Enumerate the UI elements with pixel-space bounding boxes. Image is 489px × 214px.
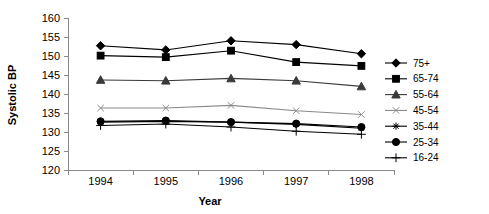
diamond-marker: [357, 50, 365, 58]
data-point-diamond: [392, 59, 400, 67]
y-tick-label: 150: [42, 50, 60, 62]
x-tick-label: 1995: [154, 175, 178, 187]
legend-label: 65-74: [413, 73, 439, 84]
series-65-74: [97, 47, 365, 69]
data-point-circle: [392, 138, 399, 145]
data-point-diamond: [162, 46, 170, 54]
y-tick-label: 145: [42, 69, 60, 81]
series-45-54: [97, 102, 364, 118]
data-point-square: [293, 59, 300, 66]
legend-label: 35-44: [413, 121, 439, 132]
x-tick-label: 1996: [219, 175, 243, 187]
circle-marker: [358, 123, 365, 130]
data-point-square: [228, 47, 235, 54]
y-tick-label: 130: [42, 126, 60, 138]
legend-item-65-74[interactable]: 65-74: [385, 73, 439, 84]
x-tick-label: 1998: [349, 175, 373, 187]
data-point-star: [392, 123, 399, 130]
diamond-marker: [292, 40, 300, 48]
square-marker: [393, 75, 400, 82]
x-tick-label: 1997: [284, 175, 308, 187]
y-tick-label: 155: [42, 31, 60, 43]
diamond-marker: [96, 42, 104, 50]
legend-item-75plus[interactable]: 75+: [385, 58, 430, 69]
data-point-square: [162, 54, 169, 61]
square-marker: [358, 62, 365, 69]
legend-label: 25-34: [413, 137, 439, 148]
legend-label: 75+: [413, 58, 430, 69]
y-tick-label: 135: [42, 107, 60, 119]
chart-canvas: 120125130135140145150155160 199419951996…: [0, 0, 489, 214]
square-marker: [228, 47, 235, 54]
legend-label: 45-54: [413, 105, 439, 116]
circle-marker: [392, 138, 399, 145]
series-layer: [96, 37, 366, 139]
y-tick-label: 160: [42, 12, 60, 24]
y-tick-label: 140: [42, 88, 60, 100]
data-point-plus: [392, 153, 401, 162]
legend-item-25-34[interactable]: 25-34: [385, 137, 439, 148]
systolic-bp-line-chart: 120125130135140145150155160 199419951996…: [0, 0, 489, 214]
data-point-circle: [293, 120, 300, 127]
legend-item-16-24[interactable]: 16-24: [385, 152, 439, 163]
square-marker: [162, 54, 169, 61]
diamond-marker: [227, 37, 235, 45]
x-axis: 19941995199619971998: [68, 170, 394, 187]
series-55-64: [96, 74, 365, 90]
legend-label: 16-24: [413, 152, 439, 163]
legend-item-45-54[interactable]: 45-54: [385, 105, 439, 116]
y-axis-title: Systolic BP: [6, 65, 18, 126]
data-point-square: [393, 75, 400, 82]
diamond-marker: [392, 59, 400, 67]
series-line: [101, 105, 362, 114]
chart-legend: 75+65-7455-6445-5435-4425-3416-24: [385, 58, 439, 164]
x-tick-label: 1994: [88, 175, 112, 187]
data-point-square: [97, 52, 104, 59]
x-axis-title: Year: [198, 195, 222, 207]
y-tick-label: 120: [42, 164, 60, 176]
data-point-diamond: [292, 40, 300, 48]
legend-item-35-44[interactable]: 35-44: [385, 121, 439, 132]
y-axis: 120125130135140145150155160: [42, 12, 68, 176]
data-point-square: [358, 62, 365, 69]
data-point-diamond: [227, 37, 235, 45]
legend-item-55-64[interactable]: 55-64: [385, 89, 439, 100]
circle-marker: [293, 120, 300, 127]
data-point-circle: [358, 123, 365, 130]
square-marker: [293, 59, 300, 66]
y-tick-label: 125: [42, 145, 60, 157]
square-marker: [97, 52, 104, 59]
data-point-plus: [357, 130, 366, 139]
data-point-plus: [292, 127, 301, 136]
data-point-diamond: [357, 50, 365, 58]
data-point-diamond: [96, 42, 104, 50]
diamond-marker: [162, 46, 170, 54]
legend-label: 55-64: [413, 89, 439, 100]
